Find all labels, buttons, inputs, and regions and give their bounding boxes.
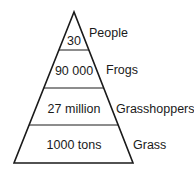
level-value-grass: 1000 tons <box>47 138 102 152</box>
level-value-people: 30 <box>67 34 81 48</box>
level-label-frogs: Frogs <box>106 63 138 77</box>
level-label-people: People <box>89 26 128 40</box>
level-label-grasshoppers: Grasshoppers <box>116 102 194 116</box>
level-value-grasshoppers: 27 million <box>48 102 101 116</box>
level-value-frogs: 90 000 <box>55 64 93 78</box>
level-label-grass: Grass <box>133 138 166 152</box>
